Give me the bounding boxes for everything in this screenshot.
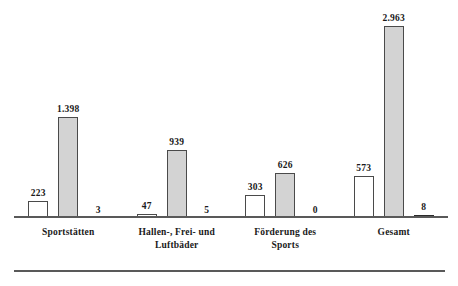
bar-series-1[interactable] (245, 195, 265, 218)
bar-group-sportstaetten: 223 1.398 3 (14, 8, 123, 218)
bar-slot-series-2: 2.963 (379, 8, 409, 218)
bar-slot-series-2: 1.398 (53, 8, 83, 218)
bar-slot-series-3: 0 (300, 8, 330, 218)
bar-value-label: 3 (96, 206, 101, 216)
bar-value-label: 5 (204, 206, 209, 216)
category-label-line: Luftbäder (123, 239, 232, 252)
bar-slot-series-3: 8 (409, 8, 439, 218)
bar-value-label: 223 (31, 189, 46, 199)
bar-series-2[interactable] (275, 173, 295, 218)
bar-slot-series-3: 5 (192, 8, 222, 218)
bar-series-1[interactable] (354, 176, 374, 218)
category-labels: Sportstätten Hallen-, Frei- und Luftbäde… (14, 224, 448, 268)
bar-value-label: 8 (421, 203, 426, 213)
bar-series-2[interactable] (384, 26, 404, 218)
bars: 303 626 0 (231, 8, 340, 218)
bar-slot-series-3: 3 (83, 8, 113, 218)
category-label-foerderung-des-sports: Förderung des Sports (231, 224, 340, 268)
bottom-frame-rule (14, 270, 445, 272)
bar-value-label: 303 (248, 183, 263, 193)
bar-slot-series-1: 47 (132, 8, 162, 218)
bar-slot-series-2: 626 (270, 8, 300, 218)
bar-slot-series-2: 939 (162, 8, 192, 218)
bar-value-label: 47 (142, 202, 152, 212)
bar-series-2[interactable] (58, 117, 78, 218)
category-label-hallen-frei-und-luftbaeder: Hallen-, Frei- und Luftbäder (123, 224, 232, 268)
bar-chart: 223 1.398 3 47 (0, 0, 458, 286)
bar-value-label: 939 (169, 138, 184, 148)
bar-value-label: 0 (313, 206, 318, 216)
bars: 573 2.963 8 (340, 8, 449, 218)
bar-slot-series-1: 573 (349, 8, 379, 218)
category-label-line: Gesamt (340, 226, 449, 239)
category-label-line: Sportstätten (14, 226, 123, 239)
bar-value-label: 573 (356, 164, 371, 174)
bar-groups: 223 1.398 3 47 (14, 8, 448, 218)
bars: 47 939 5 (123, 8, 232, 218)
category-label-line: Sports (231, 239, 340, 252)
bar-value-label: 2.963 (383, 14, 405, 24)
bar-series-2[interactable] (167, 150, 187, 218)
bar-slot-series-1: 223 (23, 8, 53, 218)
bars: 223 1.398 3 (14, 8, 123, 218)
category-axis-line (14, 216, 448, 218)
category-label-line: Hallen-, Frei- und (123, 226, 232, 239)
bar-value-label: 1.398 (57, 105, 79, 115)
bar-group-hallen-frei-und-luftbaeder: 47 939 5 (123, 8, 232, 218)
bar-group-gesamt: 573 2.963 8 (340, 8, 449, 218)
bar-slot-series-1: 303 (240, 8, 270, 218)
bar-value-label: 626 (278, 161, 293, 171)
category-label-sportstaetten: Sportstätten (14, 224, 123, 268)
category-label-gesamt: Gesamt (340, 224, 449, 268)
bar-group-foerderung-des-sports: 303 626 0 (231, 8, 340, 218)
category-label-line: Förderung des (231, 226, 340, 239)
